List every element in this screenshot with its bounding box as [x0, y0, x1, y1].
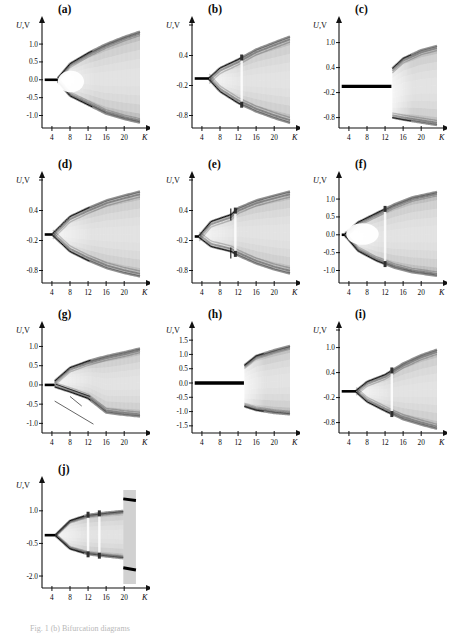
plot-area-g [0, 305, 150, 457]
periodic-window-stripe [391, 333, 393, 433]
plot-area-h [150, 305, 300, 457]
panel-i: (i)U,VK1.00.4-0.2-0.848121620 [297, 305, 447, 457]
attractor-cloud [45, 488, 136, 588]
bifurcation-figure: (a)U,VK1.00.50.0-0.5-1.048121620(b)U,VK0… [0, 0, 463, 633]
plot-area-d [0, 155, 150, 307]
periodic-window-stripe [98, 488, 100, 588]
plot-area-j [0, 460, 150, 612]
plot-area-a [0, 0, 150, 152]
attractor-cloud [45, 32, 140, 123]
plot-area-b [150, 0, 300, 152]
plot-area-c [297, 0, 447, 152]
periodic-window-stripe [384, 183, 386, 283]
attractor-cloud [45, 348, 140, 424]
panel-a: (a)U,VK1.00.50.0-0.5-1.048121620 [0, 0, 150, 152]
stable-window-region [346, 223, 379, 244]
panel-c: (c)U,VK1.00.4-0.2-0.848121620 [297, 0, 447, 152]
attractor-cloud [195, 28, 290, 128]
plot-area-i [297, 305, 447, 457]
panel-b: (b)U,VK0.4-0.2-0.848121620 [150, 0, 300, 152]
plot-area-f [297, 155, 447, 307]
attractor-cloud [45, 192, 140, 277]
periodic-window-stripe [87, 488, 89, 588]
panel-f: (f)U,VK1.00.50.0-0.5-1.048121620 [297, 155, 447, 307]
periodic-window-stripe [234, 183, 236, 283]
attractor-cloud [195, 346, 290, 415]
panel-j: (j)U,VK1.0-0.5-2.048121620 [0, 460, 150, 612]
attractor-cloud [342, 183, 437, 283]
attractor-cloud [195, 183, 290, 283]
panel-h: (h)U,VK1.51.00.50.0-0.5-1.0-1.548121620 [150, 305, 300, 457]
panel-d: (d)U,VK0.4-0.2-0.848121620 [0, 155, 150, 307]
attractor-cloud [342, 333, 437, 433]
plot-area-e [150, 155, 300, 307]
panel-e: (e)U,VK0.4-0.2-0.848121620 [150, 155, 300, 307]
panel-g: (g)U,VK1.00.50.0-0.5-1.048121620 [0, 305, 150, 457]
stable-window-region [58, 71, 84, 92]
figure-caption: Fig. 1 (b) Bifurcation diagrams [30, 624, 130, 633]
periodic-window-stripe [240, 28, 242, 128]
attractor-cloud [342, 46, 437, 125]
